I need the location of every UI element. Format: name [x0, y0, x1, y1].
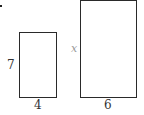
small-rect-width-label: 4 [34, 99, 42, 111]
small-rectangle [19, 32, 57, 98]
small-rect-height-label: 7 [7, 59, 15, 71]
large-rect-height-label: x [71, 43, 77, 55]
large-rect-width-label: 6 [104, 99, 112, 111]
large-rectangle [80, 0, 137, 98]
bullet-dot [0, 5, 2, 7]
